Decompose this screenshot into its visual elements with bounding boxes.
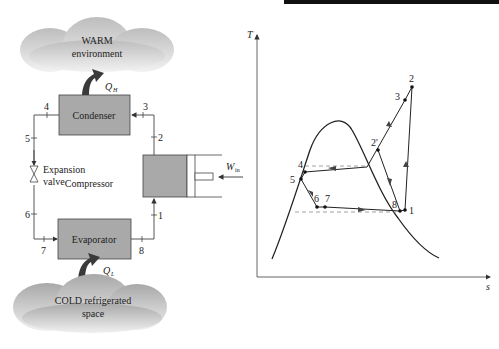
schematic-state-3: 3 (143, 101, 148, 112)
expansion-valve-line1: Expansion (43, 164, 85, 175)
evaporator-label: Evaporator (72, 234, 117, 245)
x-axis-label: s (486, 281, 490, 292)
schematic-state-4: 4 (44, 101, 49, 112)
schematic-state-7: 7 (41, 245, 46, 256)
heat-in-symbol: Q (103, 265, 111, 276)
expansion-valve-line2: valve (43, 176, 65, 187)
y-axis-label: T (247, 29, 254, 40)
schematic-state-8: 8 (139, 245, 144, 256)
schematic-state-1: 1 (158, 210, 163, 221)
expansion-valve-icon (30, 166, 38, 182)
saturation-dome (272, 121, 439, 259)
schematic-state-6: 6 (25, 209, 30, 220)
compressor (143, 155, 222, 197)
heat-in-subscript: L (110, 271, 115, 277)
ts-label-8: 8 (392, 199, 397, 210)
schematic-state-5: 5 (25, 133, 30, 144)
figure-caption-fragment (429, 345, 499, 349)
ts-label-1: 1 (409, 205, 414, 216)
ts-label-2: 2 (409, 73, 414, 84)
warm-cloud-line2: environment (72, 48, 123, 59)
ts-label-6: 6 (314, 193, 319, 204)
ts-label-4: 4 (298, 159, 303, 170)
ts-label-2prime: 2' (371, 137, 378, 148)
state-point-labels: 1 2 3 2' 4 5 6 7 8 (290, 73, 414, 216)
ts-label-7: 7 (325, 193, 330, 204)
heat-out-subscript: H (112, 87, 118, 93)
warm-cloud-line1: WARM (81, 35, 112, 46)
condenser-label: Condenser (73, 110, 116, 121)
cold-cloud-line2: space (82, 308, 105, 319)
ts-label-5: 5 (290, 174, 295, 185)
heat-out-arrow-icon (82, 69, 104, 96)
heat-out-symbol: Q (105, 81, 113, 92)
ts-label-3: 3 (395, 91, 400, 102)
refrigeration-figure: WARM environment Q H Condenser Evaporato… (0, 0, 499, 349)
cold-cloud-line1: COLD refrigerated (55, 295, 131, 306)
compressor-label: Compressor (65, 178, 114, 189)
work-in-subscript: in (235, 167, 240, 173)
schematic-state-2: 2 (158, 132, 163, 143)
